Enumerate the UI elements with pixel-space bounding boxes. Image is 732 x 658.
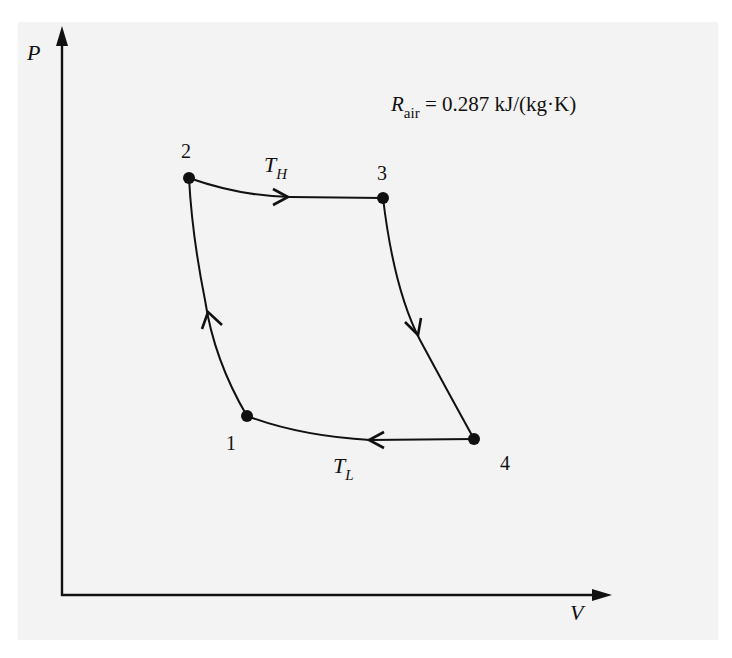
process-1-2-curve <box>189 178 247 416</box>
x-axis-label: V <box>570 600 583 626</box>
th-symbol: T <box>264 152 276 177</box>
state-point-3 <box>377 192 389 204</box>
state-point-2 <box>183 172 195 184</box>
point-label-1: 1 <box>226 432 236 455</box>
pv-diagram <box>0 0 732 658</box>
process-3-4-curve <box>383 198 474 439</box>
point-label-3: 3 <box>377 162 387 185</box>
point-label-4: 4 <box>500 452 510 475</box>
y-axis-arrow-icon <box>56 26 68 46</box>
gas-constant-annotation: Rair = 0.287 kJ/(kg·K) <box>391 92 576 117</box>
r-subscript: air <box>404 105 420 121</box>
r-value: = 0.287 kJ/(kg·K) <box>425 92 576 116</box>
arrow-up-icon <box>202 312 222 329</box>
y-axis-label: P <box>27 40 40 66</box>
r-symbol: R <box>391 92 404 116</box>
process-label-th: TH <box>264 152 287 178</box>
process-4-1-curve <box>247 416 474 440</box>
state-point-1 <box>241 410 253 422</box>
tl-subscript: L <box>345 467 353 483</box>
point-label-2: 2 <box>181 140 191 163</box>
state-point-4 <box>468 433 480 445</box>
x-axis-arrow-icon <box>592 589 612 601</box>
tl-symbol: T <box>333 453 345 478</box>
process-label-tl: TL <box>333 453 354 479</box>
th-subscript: H <box>276 166 287 182</box>
